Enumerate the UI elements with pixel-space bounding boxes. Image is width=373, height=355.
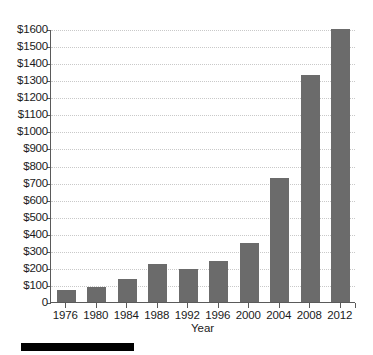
y-tick-label: $900: [0, 143, 48, 155]
y-tick-label: $1600: [0, 24, 48, 36]
y-tick-label: $500: [0, 212, 48, 224]
y-tick-label: $200: [0, 263, 48, 275]
y-tick-label: $700: [0, 178, 48, 190]
bar: [240, 243, 259, 302]
x-tick-mark: [248, 303, 249, 308]
y-tick-label: $600: [0, 195, 48, 207]
x-tick-mark: [65, 303, 66, 308]
y-tick-label: $1300: [0, 75, 48, 87]
x-axis-end-tick: [355, 303, 356, 308]
bar: [270, 178, 289, 302]
y-tick-label: $1100: [0, 109, 48, 121]
gridline: [51, 47, 355, 48]
bar: [179, 269, 198, 302]
y-tick-label: $1500: [0, 41, 48, 53]
bar: [209, 261, 228, 302]
x-tick-mark: [126, 303, 127, 308]
x-tick-mark: [187, 303, 188, 308]
x-tick-label: 2012: [320, 310, 360, 322]
plot-area: [50, 30, 355, 303]
redaction-bar: [21, 343, 134, 351]
bar-chart-figure: 0$100$200$300$400$500$600$700$800$900$10…: [0, 0, 373, 355]
x-tick-mark: [279, 303, 280, 308]
x-tick-mark: [309, 303, 310, 308]
x-tick-mark: [96, 303, 97, 308]
y-tick-label: $1000: [0, 126, 48, 138]
gridline: [51, 30, 355, 31]
bar: [57, 290, 76, 302]
x-tick-mark: [218, 303, 219, 308]
bar: [118, 279, 137, 302]
x-tick-mark: [157, 303, 158, 308]
y-tick-label: $800: [0, 161, 48, 173]
y-tick-label: $1400: [0, 58, 48, 70]
y-tick-label: $300: [0, 246, 48, 258]
bar: [331, 29, 350, 302]
y-tick-label: $1200: [0, 92, 48, 104]
y-tick-label: 0: [0, 297, 48, 309]
y-tick-label: $100: [0, 280, 48, 292]
bar: [301, 75, 320, 302]
x-axis-title: Year: [50, 322, 355, 334]
gridline: [51, 64, 355, 65]
bar: [87, 287, 106, 302]
x-tick-mark: [340, 303, 341, 308]
y-tick-label: $400: [0, 229, 48, 241]
bar: [148, 264, 167, 302]
